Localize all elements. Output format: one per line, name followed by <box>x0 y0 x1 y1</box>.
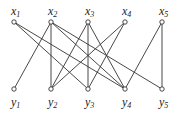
node-y1 <box>12 87 16 91</box>
edges-group <box>14 22 162 89</box>
label-y2: y2 <box>47 95 57 110</box>
bipartite-graph: x1x2x3x4x5y1y2y3y4y5 <box>0 0 176 117</box>
node-y4 <box>123 87 127 91</box>
label-x2: x2 <box>47 4 57 19</box>
node-x1 <box>12 20 16 24</box>
node-y3 <box>86 87 90 91</box>
label-y5: y5 <box>158 95 168 110</box>
label-y4: y4 <box>121 95 131 110</box>
node-y2 <box>49 87 53 91</box>
label-x5: x5 <box>158 4 168 19</box>
edge-x2-y1 <box>14 22 51 89</box>
label-x4: x4 <box>121 4 131 19</box>
node-y5 <box>160 87 164 91</box>
node-x5 <box>160 20 164 24</box>
node-x3 <box>86 20 90 24</box>
node-x2 <box>49 20 53 24</box>
node-x4 <box>123 20 127 24</box>
label-x3: x3 <box>84 4 94 19</box>
label-y1: y1 <box>10 95 20 110</box>
label-x1: x1 <box>10 4 20 19</box>
edge-x3-y2 <box>51 22 88 89</box>
label-y3: y3 <box>84 95 94 110</box>
edge-x5-y4 <box>125 22 162 89</box>
